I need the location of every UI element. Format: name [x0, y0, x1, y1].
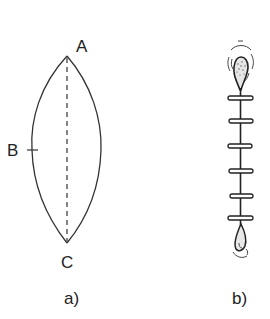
bottom-teardrop: [235, 224, 246, 251]
top-teardrop: [234, 57, 248, 90]
panel-b: b): [228, 41, 253, 308]
caption-b: b): [232, 289, 247, 308]
label-point-c: C: [61, 253, 73, 272]
panel-a: A B C a): [7, 37, 101, 308]
stitch-3: [228, 144, 252, 148]
top-side-stroke-right: [251, 54, 253, 69]
top-shade-arc: [231, 46, 251, 51]
stitch-4: [229, 169, 253, 173]
stitch-5: [230, 194, 253, 198]
bottom-shade-arc: [233, 252, 247, 257]
lens-outline-right: [67, 56, 101, 243]
bottom-shade-arc2: [246, 249, 248, 255]
stitch-2: [229, 119, 253, 123]
diagram-canvas: A B C a): [0, 0, 270, 319]
top-side-stroke-left2: [231, 59, 233, 69]
label-point-b: B: [7, 141, 18, 160]
caption-a: a): [64, 289, 79, 308]
stitch-1: [228, 96, 253, 100]
stitch-6: [228, 216, 253, 220]
label-point-a: A: [76, 37, 88, 56]
top-side-stroke-left: [228, 57, 230, 71]
